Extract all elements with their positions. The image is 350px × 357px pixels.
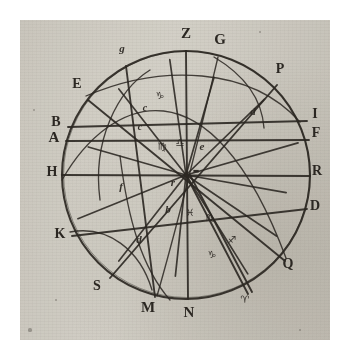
arcs-layer xyxy=(62,57,300,300)
rim-label-N: N xyxy=(184,304,195,320)
inner-mark-g-upper-left: g xyxy=(118,42,125,54)
inner-mark-glyph-capricorn: ♑ xyxy=(208,249,217,260)
rim-label-H: H xyxy=(47,164,58,179)
paper-speck-4 xyxy=(259,31,261,33)
rim-label-F: F xyxy=(312,125,321,140)
paper-speck-1 xyxy=(28,328,31,331)
inner-mark-c-upper: c xyxy=(143,102,148,113)
arc-top-left xyxy=(99,70,150,200)
rim-label-M: M xyxy=(141,299,155,315)
rim-label-E: E xyxy=(72,76,81,91)
inner-mark-glyph-sagittarius: ♐ xyxy=(228,234,237,245)
rim-label-Z: Z xyxy=(181,25,191,41)
inner-mark-glyph-scorpio: ♏ xyxy=(206,212,215,223)
rim-label-D: D xyxy=(310,198,320,213)
chord-hub-aries xyxy=(186,175,248,294)
center-point xyxy=(183,172,188,177)
arc-G-d xyxy=(214,57,264,128)
inner-mark-glyph-aquarius-upper: ♑ xyxy=(156,90,165,101)
inner-mark-glyph-libra: ♎ xyxy=(176,137,185,148)
rim-label-I: I xyxy=(312,106,317,121)
rim-label-G: G xyxy=(214,31,226,47)
inner-mark-glyph-pisces: ♓ xyxy=(186,207,195,218)
rim-label-K: K xyxy=(55,226,66,241)
astronomical-diagram: ZGPIFRDQNMSKHABE g♑cc♍♎ed▬rfb♓♏♐♑d♈ xyxy=(0,0,350,357)
inner-mark-glyph-virgo: ♍ xyxy=(158,141,167,152)
inner-mark-c-lower: c xyxy=(138,121,143,132)
figure-plate: ZGPIFRDQNMSKHABE g♑cc♍♎ed▬rfb♓♏♐♑d♈ xyxy=(0,0,350,357)
inner-mark-d-lower-left: d xyxy=(136,233,142,245)
rim-label-P: P xyxy=(276,61,285,76)
rim-label-R: R xyxy=(312,163,323,178)
inner-mark-b-lower: b xyxy=(165,203,171,215)
hub-spoke-5 xyxy=(186,175,248,274)
inner-mark-glyph-aries-rim: ♈ xyxy=(241,294,250,305)
rim-label-A: A xyxy=(49,129,60,145)
chord-hub-aries-2 xyxy=(190,175,252,292)
inner-mark-e-center-right: e xyxy=(200,140,205,152)
inner-mark-d-right: d xyxy=(250,105,256,117)
rim-label-Q: Q xyxy=(283,256,294,271)
chord-g-M xyxy=(126,66,155,297)
inner-mark-r-center: r xyxy=(171,176,176,188)
rim-label-S: S xyxy=(93,278,101,293)
hub-spoke-3 xyxy=(186,175,286,193)
inner-mark-hub-mark: ▬ xyxy=(193,167,200,175)
paper-speck-3 xyxy=(55,299,57,301)
rim-label-B: B xyxy=(51,114,60,129)
